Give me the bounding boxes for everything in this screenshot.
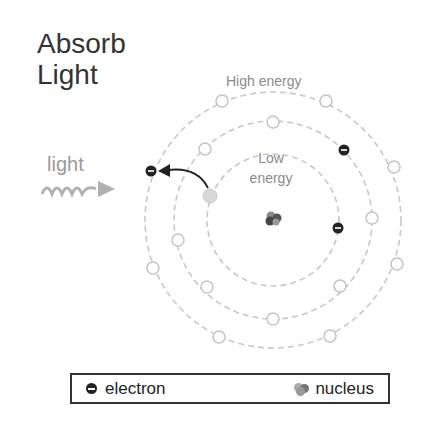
nucleus-icon — [266, 212, 282, 226]
low-energy-label-line-1: Low — [246, 148, 296, 168]
atom-diagram — [0, 0, 429, 437]
low-energy-label-line-2: energy — [246, 168, 296, 188]
electron-middle — [339, 145, 350, 156]
light-wave-icon — [42, 181, 115, 197]
arrow-head — [158, 164, 170, 177]
electron-icon — [86, 383, 97, 394]
high-energy-label: High energy — [226, 73, 302, 89]
transition-arrow — [168, 170, 208, 188]
electron-outer-excited — [146, 166, 157, 177]
electron-inner — [333, 223, 344, 234]
nucleus-legend-icon — [293, 382, 311, 396]
legend-nucleus: nucleus — [293, 379, 374, 399]
legend-electron-label: electron — [105, 379, 165, 399]
light-label: light — [47, 153, 84, 176]
low-energy-label: Low energy — [246, 148, 296, 188]
vacated-position-marker — [203, 189, 217, 203]
legend-nucleus-label: nucleus — [315, 379, 374, 399]
legend-electron: electron — [86, 379, 165, 399]
legend: electron nucleus — [70, 373, 390, 404]
